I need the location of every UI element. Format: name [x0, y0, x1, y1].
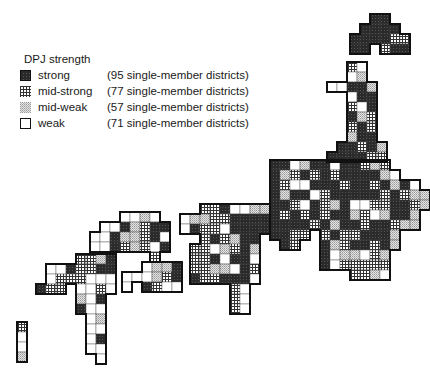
district-mid-strong [250, 264, 260, 274]
district-strong [240, 214, 250, 224]
district-mid-strong [220, 214, 230, 224]
district-strong [320, 260, 330, 270]
district-strong [240, 254, 250, 264]
district-weak [86, 304, 96, 314]
district-mid-strong [380, 200, 390, 210]
district-strong [280, 160, 290, 170]
district-weak [327, 82, 337, 92]
district-weak [86, 314, 96, 324]
district-mid-strong [367, 112, 377, 122]
district-mid-weak [250, 204, 260, 214]
district-weak [310, 190, 320, 200]
district-strong [270, 210, 280, 220]
district-strong [347, 82, 357, 92]
district-weak [230, 264, 240, 274]
district-strong [380, 230, 390, 240]
district-weak [180, 214, 190, 224]
district-mid-weak [152, 262, 162, 272]
district-strong [240, 244, 250, 254]
district-weak [17, 332, 27, 342]
district-strong [350, 190, 360, 200]
district-strong [280, 220, 290, 230]
district-weak [290, 160, 300, 170]
district-strong [280, 230, 290, 240]
district-mid-strong [200, 244, 210, 254]
district-strong [260, 224, 270, 234]
district-mid-strong [370, 200, 380, 210]
district-mid-strong [310, 220, 320, 230]
district-strong [360, 230, 370, 240]
district-weak [96, 354, 106, 364]
district-weak [347, 72, 357, 82]
district-weak [240, 284, 250, 294]
district-mid-strong [370, 260, 380, 270]
district-weak [86, 294, 96, 304]
district-strong [210, 254, 220, 264]
district-mid-weak [357, 72, 367, 82]
district-weak [122, 282, 132, 292]
district-mid-weak [220, 244, 230, 254]
district-strong [230, 224, 240, 234]
district-strong [330, 180, 340, 190]
district-mid-strong [320, 190, 330, 200]
district-mid-weak [390, 230, 400, 240]
district-strong [320, 220, 330, 230]
district-strong [350, 44, 360, 54]
district-strong [280, 240, 290, 250]
district-weak [220, 254, 230, 264]
district-mid-weak [380, 170, 390, 180]
district-mid-weak [250, 244, 260, 254]
district-mid-strong [200, 274, 210, 284]
district-weak [240, 304, 250, 314]
district-weak [46, 264, 56, 274]
district-weak [106, 274, 116, 284]
district-mid-weak [367, 82, 377, 92]
district-mid-strong [280, 210, 290, 220]
district-mid-weak [130, 232, 140, 242]
district-mid-weak [130, 222, 140, 232]
district-mid-strong [360, 210, 370, 220]
district-mid-strong [400, 34, 410, 44]
district-strong [360, 24, 370, 34]
district-mid-weak [330, 240, 340, 250]
district-weak [300, 180, 310, 190]
district-mid-weak [96, 314, 106, 324]
district-strong [357, 92, 367, 102]
district-mid-strong [400, 190, 410, 200]
district-strong [106, 264, 116, 274]
district-mid-weak [410, 210, 420, 220]
district-strong [330, 230, 340, 240]
district-strong [390, 200, 400, 210]
district-weak [142, 272, 152, 282]
district-strong [320, 170, 330, 180]
district-strong [390, 44, 400, 54]
district-weak [96, 274, 106, 284]
district-mid-weak [300, 160, 310, 170]
district-cells [17, 14, 430, 364]
district-strong [240, 224, 250, 234]
district-mid-strong [210, 274, 220, 284]
district-strong [340, 190, 350, 200]
district-weak [100, 232, 110, 242]
district-strong [400, 180, 410, 190]
district-mid-weak [377, 142, 387, 152]
district-mid-weak [380, 250, 390, 260]
district-mid-weak [280, 170, 290, 180]
district-weak [100, 242, 110, 252]
district-strong [390, 190, 400, 200]
district-weak [132, 272, 142, 282]
district-weak [86, 344, 96, 354]
district-mid-strong [290, 230, 300, 240]
district-strong [340, 220, 350, 230]
district-mid-strong [210, 204, 220, 214]
district-weak [142, 262, 152, 272]
district-weak [100, 222, 110, 232]
district-mid-weak [400, 220, 410, 230]
district-strong [250, 214, 260, 224]
district-strong [270, 220, 280, 230]
region-okinawa [17, 322, 27, 362]
district-strong [300, 220, 310, 230]
district-mid-strong [86, 264, 96, 274]
district-mid-strong [200, 204, 210, 214]
district-mid-weak [230, 234, 240, 244]
